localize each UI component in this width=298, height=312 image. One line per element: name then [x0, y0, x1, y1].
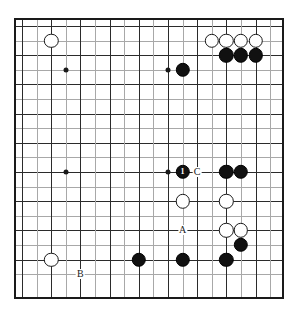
stone-black[interactable]	[234, 165, 248, 179]
grid-line-vertical	[95, 18, 96, 299]
board-label-a: A	[178, 225, 187, 235]
stone-white[interactable]	[205, 33, 219, 47]
stone-white[interactable]	[248, 33, 262, 47]
grid-line-horizontal	[14, 26, 284, 27]
stone-white[interactable]	[44, 252, 58, 266]
stone-white[interactable]	[44, 33, 58, 47]
stone-black[interactable]	[175, 63, 189, 77]
grid-line-vertical	[212, 18, 213, 299]
grid-line-vertical	[80, 18, 81, 299]
stone-black[interactable]	[175, 252, 189, 266]
stone-black[interactable]	[219, 48, 233, 62]
grid-line-vertical	[66, 18, 67, 299]
stone-move-number: 1	[181, 168, 185, 176]
grid-line-horizontal	[14, 70, 284, 71]
grid-line-vertical	[124, 18, 125, 299]
stone-black[interactable]	[132, 252, 146, 266]
stone-black[interactable]	[248, 48, 262, 62]
grid-line-horizontal	[14, 143, 284, 144]
go-board-figure: 1 CAB	[0, 0, 298, 312]
stone-black[interactable]	[234, 48, 248, 62]
grid-line-vertical	[153, 18, 154, 299]
star-point	[63, 170, 68, 175]
stone-black[interactable]: 1	[175, 165, 189, 179]
grid-line-horizontal	[14, 99, 284, 100]
grid-line-vertical	[168, 18, 169, 299]
stone-white[interactable]	[234, 223, 248, 237]
stone-black[interactable]	[219, 165, 233, 179]
star-point	[166, 67, 171, 72]
goban[interactable]: 1 CAB	[14, 18, 284, 299]
board-label-b: B	[76, 269, 85, 279]
grid-line-horizontal	[14, 187, 284, 188]
grid-line-vertical	[22, 18, 23, 299]
board-label-c: C	[193, 167, 202, 177]
stone-white[interactable]	[175, 194, 189, 208]
grid-line-horizontal	[14, 274, 284, 275]
grid-line-vertical	[37, 18, 38, 299]
stone-white[interactable]	[219, 223, 233, 237]
stone-white[interactable]	[234, 33, 248, 47]
grid-line-vertical	[270, 18, 271, 299]
grid-line-horizontal	[14, 128, 284, 129]
grid-line-horizontal	[14, 114, 284, 115]
stone-white[interactable]	[219, 33, 233, 47]
stone-white[interactable]	[219, 194, 233, 208]
grid-line-vertical	[197, 18, 198, 299]
grid-line-horizontal	[14, 157, 284, 158]
grid-line-horizontal	[14, 216, 284, 217]
stone-black[interactable]	[234, 238, 248, 252]
stone-black[interactable]	[219, 252, 233, 266]
star-point	[166, 170, 171, 175]
grid-line-horizontal	[14, 201, 284, 202]
grid-line-horizontal	[14, 84, 284, 85]
grid-line-vertical	[110, 18, 111, 299]
star-point	[63, 67, 68, 72]
